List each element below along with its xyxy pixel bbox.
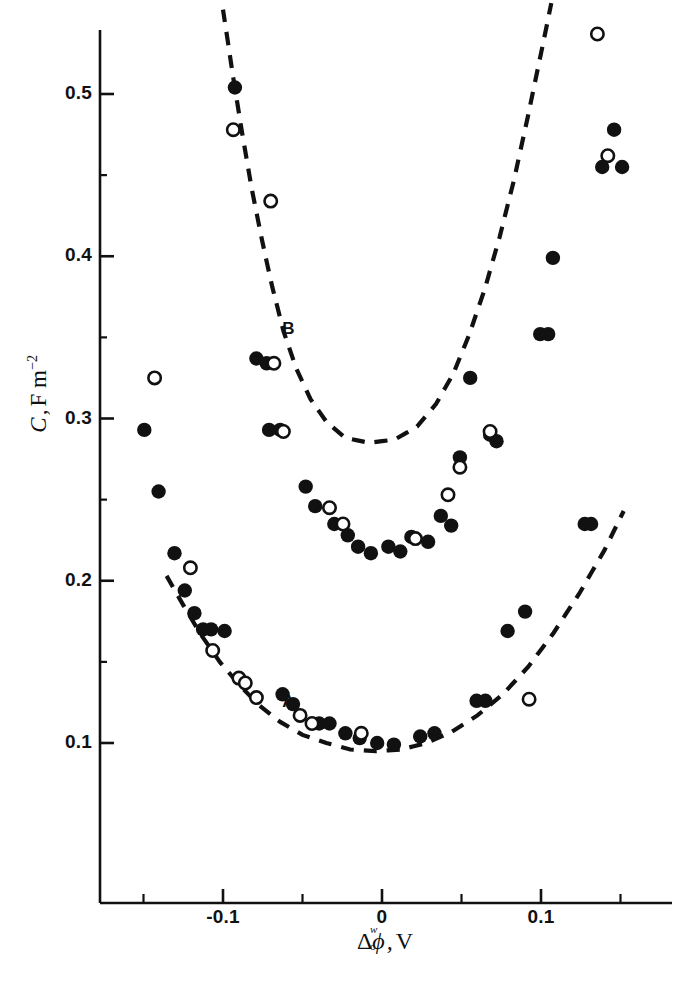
data-point-open: [484, 425, 496, 437]
data-point-filled: [421, 535, 435, 549]
fit-curves: [167, 3, 624, 751]
y-axis-exponent: −2: [24, 355, 40, 370]
data-point-filled: [584, 517, 598, 531]
y-axis-unit: F m: [26, 370, 51, 406]
curve-label-b: B: [282, 319, 294, 339]
x-tick-label: 0.1: [506, 906, 576, 928]
data-point-open: [268, 357, 280, 369]
data-point-filled: [217, 624, 231, 638]
data-point-filled: [387, 737, 401, 751]
data-points: [137, 28, 629, 752]
data-point-filled: [427, 726, 441, 740]
y-tick-label: 0.1: [46, 731, 92, 753]
curve-label-a: A: [282, 692, 294, 712]
data-point-filled: [607, 123, 621, 137]
data-point-filled: [228, 80, 242, 94]
plot-canvas: [0, 0, 692, 984]
y-tick-label: 0.2: [46, 569, 92, 591]
data-point-open: [409, 532, 421, 544]
data-point-open: [294, 709, 306, 721]
y-axis-ticks: [100, 94, 114, 743]
y-tick-label: 0.4: [46, 244, 92, 266]
data-point-open: [355, 727, 367, 739]
data-point-filled: [167, 546, 181, 560]
data-point-filled: [308, 499, 322, 513]
data-point-filled: [615, 160, 629, 174]
x-axis-comma: ,: [385, 928, 396, 954]
data-point-open: [591, 28, 603, 40]
data-point-open: [239, 677, 251, 689]
data-point-open: [306, 717, 318, 729]
x-axis-ticks: [144, 889, 621, 903]
data-point-filled: [322, 716, 336, 730]
data-point-filled: [151, 484, 165, 498]
data-point-filled: [338, 726, 352, 740]
data-point-filled: [413, 729, 427, 743]
data-point-filled: [463, 371, 477, 385]
y-axis-title: C,F m−2: [24, 304, 52, 484]
data-point-filled: [204, 622, 218, 636]
data-point-filled: [370, 736, 384, 750]
data-point-filled: [187, 606, 201, 620]
x-axis-title: Δwoϕ,V: [270, 928, 500, 955]
data-point-filled: [518, 604, 532, 618]
data-point-filled: [137, 423, 151, 437]
data-point-filled: [546, 251, 560, 265]
data-point-filled: [178, 583, 192, 597]
data-point-filled: [444, 518, 458, 532]
y-tick-label: 0.3: [46, 407, 92, 429]
delta-symbol-group: Δwo: [357, 928, 372, 955]
data-point-open: [265, 195, 277, 207]
y-tick-label: 0.5: [46, 82, 92, 104]
data-point-open: [148, 372, 160, 384]
data-point-open: [454, 461, 466, 473]
x-axis-unit: V: [396, 928, 413, 954]
fit-curve-b: [223, 3, 551, 443]
data-point-filled: [393, 544, 407, 558]
data-point-open: [337, 518, 349, 530]
data-point-filled: [364, 546, 378, 560]
figure-panel: C,F m−2 Δwoϕ,V A B 0.10.20.30.40.5-0.100…: [0, 0, 692, 984]
data-point-filled: [299, 479, 313, 493]
x-tick-label: 0: [347, 906, 417, 928]
data-point-open: [184, 562, 196, 574]
data-point-filled: [351, 540, 365, 554]
data-point-filled: [478, 694, 492, 708]
data-point-open: [277, 425, 289, 437]
data-point-open: [442, 489, 454, 501]
data-point-open: [227, 124, 239, 136]
x-tick-label: -0.1: [188, 906, 258, 928]
data-point-open: [323, 502, 335, 514]
data-point-filled: [541, 327, 555, 341]
data-point-open: [602, 150, 614, 162]
delta-subscript-o: o: [370, 940, 376, 952]
data-point-filled: [500, 624, 514, 638]
data-point-open: [250, 691, 262, 703]
data-point-open: [523, 693, 535, 705]
data-point-open: [207, 644, 219, 656]
axis-lines: [100, 30, 672, 903]
